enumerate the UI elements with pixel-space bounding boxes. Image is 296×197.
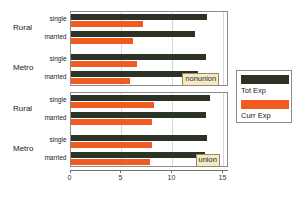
x-tick-label-0: 0 bbox=[68, 174, 72, 181]
legend-label-curr-exp: Curr Exp bbox=[241, 111, 271, 120]
gridline-15 bbox=[223, 93, 224, 166]
row-label-single: single bbox=[27, 136, 67, 143]
group-label-Rural: Rural bbox=[13, 23, 32, 32]
chart-root: singlemarriedRuralsinglemarriedMetrononu… bbox=[0, 0, 296, 197]
bar-curr-exp bbox=[71, 159, 151, 165]
bar-tot-exp bbox=[71, 54, 207, 60]
group-label-Metro: Metro bbox=[13, 63, 33, 72]
bar-curr-exp bbox=[71, 119, 153, 125]
strip-label-union: union bbox=[196, 154, 220, 167]
bar-tot-exp bbox=[71, 14, 208, 20]
row-label-married: married bbox=[27, 33, 67, 40]
row-label-single: single bbox=[27, 55, 67, 62]
x-axis: 051015 bbox=[70, 170, 228, 184]
chart-legend: Tot ExpCurr Exp bbox=[236, 70, 292, 123]
row-label-married: married bbox=[27, 154, 67, 161]
bar-curr-exp bbox=[71, 78, 130, 84]
bar-curr-exp bbox=[71, 38, 133, 44]
bar-curr-exp bbox=[71, 21, 143, 27]
row-label-married: married bbox=[27, 114, 67, 121]
bar-curr-exp bbox=[71, 142, 153, 148]
x-tick-10 bbox=[171, 170, 172, 173]
x-tick-0 bbox=[70, 170, 71, 173]
gridline-15 bbox=[223, 12, 224, 85]
bar-tot-exp bbox=[71, 95, 211, 101]
legend-label-tot-exp: Tot Exp bbox=[241, 86, 266, 95]
bar-tot-exp bbox=[71, 71, 198, 77]
bar-tot-exp bbox=[71, 135, 208, 141]
x-tick-label-10: 10 bbox=[168, 174, 176, 181]
x-tick-label-5: 5 bbox=[119, 174, 123, 181]
bar-tot-exp bbox=[71, 152, 206, 158]
group-label-Metro: Metro bbox=[13, 144, 33, 153]
x-tick-label-15: 15 bbox=[218, 174, 226, 181]
x-tick-5 bbox=[120, 170, 121, 173]
legend-swatch-curr-exp bbox=[241, 100, 289, 109]
row-label-single: single bbox=[27, 15, 67, 22]
row-label-married: married bbox=[27, 73, 67, 80]
row-label-single: single bbox=[27, 96, 67, 103]
bar-tot-exp bbox=[71, 112, 207, 118]
group-label-Rural: Rural bbox=[13, 104, 32, 113]
bar-tot-exp bbox=[71, 31, 195, 37]
x-tick-15 bbox=[222, 170, 223, 173]
strip-label-nonunion: nonunion bbox=[182, 73, 219, 86]
bar-curr-exp bbox=[71, 102, 155, 108]
legend-swatch-tot-exp bbox=[241, 75, 289, 84]
x-axis-line bbox=[70, 170, 228, 171]
bar-curr-exp bbox=[71, 61, 137, 67]
